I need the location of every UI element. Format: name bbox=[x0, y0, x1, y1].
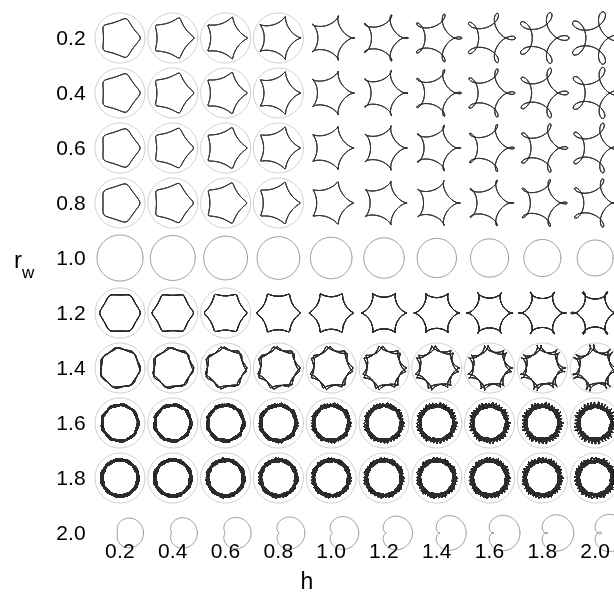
x-tick-label: 1.8 bbox=[512, 540, 572, 561]
x-tick-label: 0.8 bbox=[248, 540, 308, 561]
x-axis-label: h bbox=[0, 570, 614, 593]
spirograph-grid-figure: 0.20.40.60.81.01.21.41.61.82.0 0.20.40.6… bbox=[0, 0, 614, 606]
y-axis-label: rw bbox=[14, 248, 34, 281]
x-tick-label: 1.4 bbox=[407, 540, 467, 561]
x-tick-label: 1.2 bbox=[354, 540, 414, 561]
x-tick-label: 0.4 bbox=[143, 540, 203, 561]
y-axis-label-base: r bbox=[14, 246, 22, 273]
x-tick-label: 0.2 bbox=[90, 540, 150, 561]
x-tick-label: 2.0 bbox=[565, 540, 614, 561]
x-axis-tick-labels: 0.20.40.60.81.01.21.41.61.82.0 bbox=[0, 0, 614, 606]
x-tick-label: 0.6 bbox=[196, 540, 256, 561]
x-tick-label: 1.0 bbox=[301, 540, 361, 561]
y-axis-label-subscript: w bbox=[22, 263, 34, 282]
x-tick-label: 1.6 bbox=[460, 540, 520, 561]
